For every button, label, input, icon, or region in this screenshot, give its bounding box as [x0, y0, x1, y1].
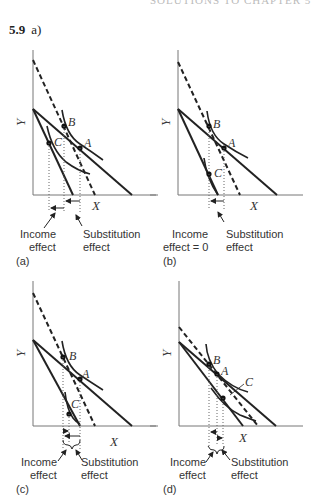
substitution-pointer: [76, 215, 82, 226]
point-a-label: A: [220, 364, 229, 378]
income-effect-label-1: Income: [170, 456, 206, 468]
substitution-effect-label-1: Substitution: [81, 456, 138, 468]
budget-line-new: [178, 109, 218, 195]
substitution-effect-label-1: Substitution: [226, 228, 283, 240]
point-a-label: A: [227, 136, 236, 150]
x-axis-label: X: [109, 434, 119, 449]
panel-a: Y X A B C Income effect Substitution eff…: [13, 50, 156, 267]
point-b-label: B: [213, 117, 221, 131]
income-pointer: [206, 452, 213, 462]
point-c-label: C: [245, 375, 254, 389]
point-b-label: B: [69, 349, 77, 363]
point-c-label: C: [71, 397, 80, 411]
y-axis-label: Y: [13, 117, 28, 126]
diagram-canvas: Y X A B C Income effect Substitution eff…: [0, 0, 312, 497]
panel-label-d: (d): [163, 483, 176, 495]
income-effect-label-2: effect = 0: [163, 241, 208, 253]
point-a-label: A: [81, 367, 90, 381]
brace: [63, 440, 80, 449]
x-axis-label: X: [249, 198, 259, 213]
substitution-effect-label-2: effect: [81, 469, 108, 481]
income-effect-label-1: Income: [21, 456, 57, 468]
substitution-effect-label-2: effect: [231, 469, 258, 481]
panel-c: Y X A B C Income effect Substitution eff…: [13, 281, 156, 495]
y-axis-label: Y: [13, 348, 28, 357]
brace: [208, 446, 224, 454]
income-effect-label-2: effect: [30, 469, 57, 481]
substitution-pointer: [222, 450, 230, 460]
budget-line-new: [179, 342, 243, 426]
budget-line-original: [33, 109, 132, 195]
point-a-label: A: [83, 136, 92, 150]
substitution-effect-label-1: Substitution: [231, 456, 288, 468]
panel-d: Y X A B C Income effect Substitution eff…: [150, 281, 303, 495]
panel-label-a: (a): [16, 255, 29, 267]
panel-label-b: (b): [163, 255, 176, 267]
panel-b: Y X A B C Income effect = 0 Substitution…: [150, 50, 303, 267]
x-axis-label: X: [91, 198, 101, 213]
income-effect-label-1: Income: [20, 228, 56, 240]
budget-line-original: [178, 109, 277, 195]
income-effect-label-2: effect: [29, 241, 56, 253]
point-b-label: B: [213, 353, 221, 367]
income-pointer: [58, 450, 66, 461]
point-b-label: B: [68, 115, 76, 129]
panel-label-c: (c): [16, 483, 29, 495]
budget-line-original: [33, 340, 132, 426]
point-c-label: C: [214, 166, 223, 180]
budget-line-compensated: [33, 293, 95, 426]
income-pointer: [44, 213, 55, 228]
income-effect-label-1: Income: [172, 228, 208, 240]
y-axis-label: Y: [158, 117, 173, 126]
indifference-curve-low: [47, 126, 90, 174]
budget-line-new: [33, 109, 73, 195]
substitution-effect-label-2: effect: [226, 241, 253, 253]
income-effect-label-2: effect: [179, 469, 206, 481]
point-c-label: C: [54, 135, 63, 149]
y-axis-label: Y: [159, 348, 174, 357]
substitution-effect-label-1: Substitution: [83, 228, 140, 240]
x-axis-label: X: [238, 430, 248, 445]
budget-line-original: [179, 342, 276, 426]
substitution-effect-label-2: effect: [83, 241, 110, 253]
substitution-pointer: [218, 212, 224, 222]
